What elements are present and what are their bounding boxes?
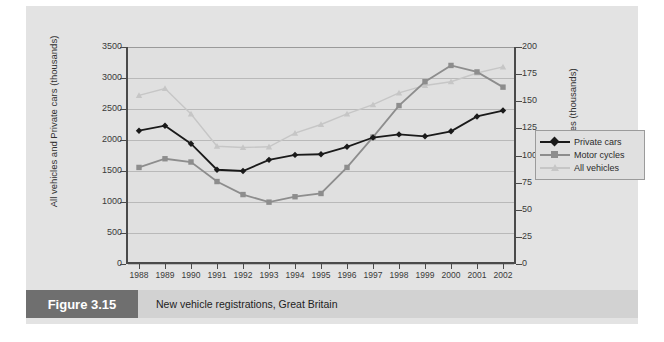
x-axis-tickmark: [503, 264, 504, 269]
data-series-layer: [126, 47, 516, 264]
y-axis-right-tickmark: [516, 264, 522, 265]
data-point-square-icon: [448, 63, 453, 68]
data-point-square-icon: [266, 199, 271, 204]
legend-label-private-cars: Private cars: [574, 137, 622, 147]
y-axis-right-tick-label: 175: [522, 68, 537, 78]
x-axis-tick-label: 1991: [204, 270, 230, 280]
series-line: [139, 65, 503, 202]
x-axis-tickmark: [451, 264, 452, 269]
y-axis-left-tick-label: 3000: [102, 72, 122, 82]
y-axis-left-tick-label: 1000: [102, 196, 122, 206]
chart-legend: Private cars Motor cycles All vehicles: [535, 130, 645, 180]
legend-key-triangle-icon: [540, 162, 570, 173]
x-axis-tickmark: [477, 264, 478, 269]
x-axis-tickmark: [399, 264, 400, 269]
x-axis-tick-label: 1990: [178, 270, 204, 280]
data-point-square-icon: [292, 194, 297, 199]
data-point-diamond-icon: [136, 128, 142, 134]
y-axis-left-ticks: 3500300025002000150010005000: [84, 47, 122, 264]
legend-key-square-icon: [540, 149, 570, 160]
data-point-diamond-icon: [422, 133, 428, 139]
legend-label-all-vehicles: All vehicles: [574, 163, 619, 173]
y-axis-left-tick-label: 1500: [102, 165, 122, 175]
x-axis-tickmark: [347, 264, 348, 269]
series-all-vehicles: [136, 64, 506, 150]
y-axis-right-tickmark: [516, 101, 522, 102]
y-axis-right-tick-label: 200: [522, 41, 537, 51]
y-axis-right-tickmark: [516, 210, 522, 211]
x-axis-tick-label: 1988: [126, 270, 152, 280]
x-axis-ticks: 1988198919901991199219931994199519961997…: [126, 264, 516, 288]
x-axis-tickmark: [269, 264, 270, 269]
x-axis-tick-label: 1998: [386, 270, 412, 280]
x-axis-tickmark: [373, 264, 374, 269]
data-point-triangle-icon: [500, 64, 506, 70]
data-point-square-icon: [318, 191, 323, 196]
legend-key-diamond-icon: [540, 136, 570, 147]
y-axis-right-tick-label: 25: [522, 231, 532, 241]
y-axis-right-tickmark: [516, 47, 522, 48]
data-point-square-icon: [474, 69, 479, 74]
legend-label-motor-cycles: Motor cycles: [574, 150, 625, 160]
data-point-diamond-icon: [344, 144, 350, 150]
y-axis-right-tickmark: [516, 128, 522, 129]
y-axis-right-tick-label: 75: [522, 177, 532, 187]
x-axis-tick-label: 2000: [438, 270, 464, 280]
x-axis-tickmark: [243, 264, 244, 269]
data-point-square-icon: [344, 165, 349, 170]
y-axis-left-tick-label: 3500: [102, 41, 122, 51]
data-point-diamond-icon: [292, 152, 298, 158]
x-axis-tickmark: [165, 264, 166, 269]
data-point-diamond-icon: [240, 168, 246, 174]
data-point-square-icon: [422, 79, 427, 84]
x-axis-tickmark: [321, 264, 322, 269]
data-point-diamond-icon: [266, 157, 272, 163]
y-axis-right-tick-label: 50: [522, 204, 532, 214]
y-axis-right-title: Motor cycles (thousands): [567, 32, 578, 212]
figure-caption-text: New vehicle registrations, Great Britain: [156, 290, 338, 318]
data-point-square-icon: [214, 179, 219, 184]
y-axis-right-tick-label: 0: [522, 258, 527, 268]
x-axis-tick-label: 1992: [230, 270, 256, 280]
x-axis-tick-label: 1989: [152, 270, 178, 280]
y-axis-left-tick-label: 500: [107, 227, 122, 237]
x-axis-tick-label: 1999: [412, 270, 438, 280]
data-point-square-icon: [162, 156, 167, 161]
x-axis-tick-label: 1996: [334, 270, 360, 280]
figure-container: All vehicles and Private cars (thousands…: [0, 0, 664, 342]
legend-item-motor-cycles: Motor cycles: [540, 148, 639, 161]
data-point-square-icon: [188, 159, 193, 164]
x-axis-tick-label: 1994: [282, 270, 308, 280]
x-axis-tick-label: 2002: [490, 270, 516, 280]
data-point-diamond-icon: [500, 107, 506, 113]
data-point-diamond-icon: [318, 151, 324, 157]
x-axis-tick-label: 1993: [256, 270, 282, 280]
x-axis-tickmark: [425, 264, 426, 269]
y-axis-right-tickmark: [516, 183, 522, 184]
y-axis-left-tick-label: 2000: [102, 134, 122, 144]
x-axis-tickmark: [191, 264, 192, 269]
y-axis-left-tick-label: 0: [117, 258, 122, 268]
x-axis-tick-label: 1995: [308, 270, 334, 280]
y-axis-right-tickmark: [516, 156, 522, 157]
y-axis-left-title: All vehicles and Private cars (thousands…: [48, 32, 59, 212]
data-point-square-icon: [500, 84, 505, 89]
data-point-triangle-icon: [162, 85, 168, 91]
legend-item-private-cars: Private cars: [540, 135, 639, 148]
y-axis-right-tick-label: 150: [522, 95, 537, 105]
y-axis-left-tick-label: 2500: [102, 103, 122, 113]
series-line: [139, 67, 503, 148]
chart-area: All vehicles and Private cars (thousands…: [26, 6, 638, 284]
y-axis-right-tickmark: [516, 237, 522, 238]
x-axis-tickmark: [295, 264, 296, 269]
data-point-square-icon: [396, 103, 401, 108]
data-point-square-icon: [136, 165, 141, 170]
figure-caption-bar: Figure 3.15 New vehicle registrations, G…: [26, 290, 638, 318]
y-axis-right-tickmark: [516, 74, 522, 75]
x-axis-tick-label: 1997: [360, 270, 386, 280]
x-axis-tick-label: 2001: [464, 270, 490, 280]
legend-item-all-vehicles: All vehicles: [540, 161, 639, 174]
data-point-diamond-icon: [396, 131, 402, 137]
data-point-square-icon: [240, 192, 245, 197]
x-axis-tickmark: [217, 264, 218, 269]
